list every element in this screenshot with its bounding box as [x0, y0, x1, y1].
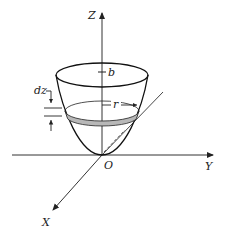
b-label: b: [108, 66, 115, 79]
x-axis: [53, 155, 102, 210]
z-axis-label: Z: [87, 9, 96, 22]
dz-label: dz: [34, 84, 47, 97]
diagram-canvas: b r dz Z Y X O: [0, 0, 227, 235]
x-axis-label: X: [41, 216, 51, 229]
r-label: r: [113, 98, 119, 111]
origin-label: O: [104, 159, 113, 172]
paraboloid-figure: b r dz Z Y X O: [0, 0, 227, 235]
x-axis-hidden: [104, 130, 125, 152]
y-axis-label: Y: [205, 160, 214, 173]
